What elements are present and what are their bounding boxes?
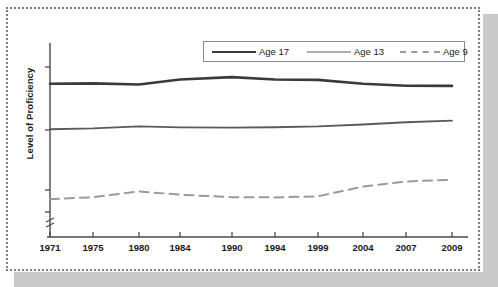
series-line-age-9 [50,180,452,199]
x-axis-tick-label: 1971 [39,242,60,253]
plot-area: Level of Proficiency 1971197519801984199… [0,0,498,287]
legend-label-age-13: Age 13 [354,46,384,57]
legend-swatch-age-9 [400,47,440,57]
x-axis-tick-label: 1990 [221,242,242,253]
series-line-age-17 [50,77,452,86]
y-axis-ticks [45,67,50,212]
legend-item-age-17[interactable]: Age 17 [212,42,289,61]
x-axis-tick-label: 2007 [395,242,416,253]
legend-item-age-13[interactable]: Age 13 [307,42,384,61]
legend-swatch-age-17 [212,47,256,57]
x-axis-tick-label: 1994 [264,242,285,253]
legend-item-age-9[interactable]: Age 9 [400,42,468,61]
x-axis-tick-label: 1999 [307,242,328,253]
chart-legend: Age 17 Age 13 Age 9 [203,41,465,62]
x-axis-ticks [50,232,452,237]
series-line-age-13 [50,121,452,130]
legend-swatch-age-13 [307,47,351,57]
x-axis-tick-label: 1980 [128,242,149,253]
figure-container: Level of Proficiency 1971197519801984199… [0,0,498,287]
x-axis-tick-label: 1984 [169,242,190,253]
x-axis-tick-label: 1975 [82,242,103,253]
legend-label-age-17: Age 17 [259,46,289,57]
x-axis-tick-label: 2009 [441,242,462,253]
legend-label-age-9: Age 9 [443,46,468,57]
y-axis-title: Level of Proficiency [24,54,35,174]
x-axis-tick-label: 2004 [352,242,373,253]
